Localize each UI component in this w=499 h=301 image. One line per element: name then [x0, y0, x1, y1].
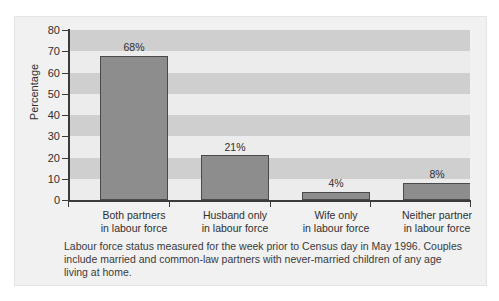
y-tick: [62, 158, 69, 159]
y-tick-label: 70: [20, 45, 60, 57]
x-category-line1: Wife only: [303, 209, 370, 222]
x-tick: [68, 201, 69, 207]
y-tick-label: 20: [20, 152, 60, 164]
x-category-label-both-partners: Both partners in labour force: [101, 209, 168, 234]
x-category-line2: in labour force: [303, 222, 370, 235]
x-category-line2: in labour force: [402, 222, 472, 235]
x-category-label-neither-partner: Neither partner in labour force: [402, 209, 472, 234]
x-category-line2: in labour force: [101, 222, 168, 235]
x-category-line1: Neither partner: [402, 209, 472, 222]
x-category-label-husband-only: Husband only in labour force: [202, 209, 269, 234]
y-tick-label: 10: [20, 173, 60, 185]
footnote-line-2: include married and common-law partners …: [64, 253, 454, 266]
bar-value-both-partners: 68%: [123, 41, 144, 53]
y-tick-label: 50: [20, 88, 60, 100]
footnote-line-3: living at home.: [64, 266, 454, 279]
bar-both-partners: [100, 56, 168, 201]
bar-value-neither-partner: 8%: [429, 168, 444, 180]
x-tick: [270, 201, 271, 207]
x-category-line1: Both partners: [101, 209, 168, 222]
y-tick: [62, 73, 69, 74]
y-axis-label: Percentage: [28, 32, 40, 152]
bar-husband-only: [201, 155, 269, 200]
plot-area: [68, 30, 470, 200]
x-category-label-wife-only: Wife only in labour force: [303, 209, 370, 234]
bar-value-husband-only: 21%: [224, 141, 245, 153]
y-tick: [62, 115, 69, 116]
x-category-line1: Husband only: [202, 209, 269, 222]
y-tick-label: 0: [20, 194, 60, 206]
y-tick: [62, 30, 69, 31]
y-tick: [62, 136, 69, 137]
y-tick: [62, 51, 69, 52]
bar-value-wife-only: 4%: [328, 177, 343, 189]
x-tick: [470, 201, 471, 207]
bar-wife-only: [302, 192, 370, 201]
y-tick: [62, 179, 69, 180]
y-tick-label: 40: [20, 109, 60, 121]
y-tick-label: 80: [20, 24, 60, 36]
y-tick-label: 30: [20, 130, 60, 142]
footnote-line-1: Labour force status measured for the wee…: [64, 240, 454, 253]
chart-footnote: Labour force status measured for the wee…: [64, 240, 454, 280]
x-tick: [169, 201, 170, 207]
bar-neither-partner: [403, 183, 470, 200]
x-tick: [370, 201, 371, 207]
figure: 0 10 20 30 40 50 60 70 80 Percentage 68%…: [0, 0, 499, 301]
y-tick: [62, 94, 69, 95]
x-category-line2: in labour force: [202, 222, 269, 235]
y-tick-label: 60: [20, 67, 60, 79]
